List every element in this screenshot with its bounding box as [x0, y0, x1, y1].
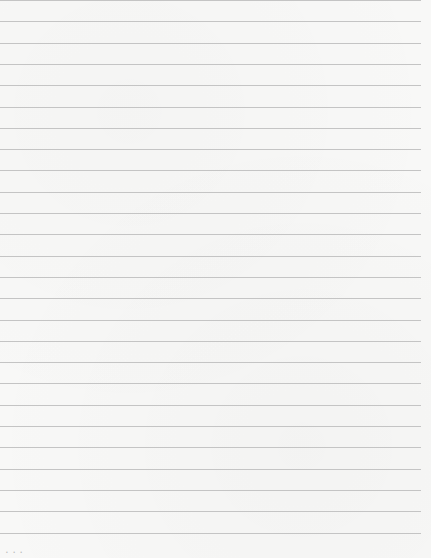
- ruled-line: [0, 341, 421, 342]
- ruled-line: [0, 405, 421, 406]
- ruled-line: [0, 469, 421, 470]
- ruled-line: [0, 533, 421, 534]
- ruled-line: [0, 298, 421, 299]
- ruled-line: [0, 426, 421, 427]
- ruled-line: [0, 64, 421, 65]
- ruled-line: [0, 383, 421, 384]
- page-corner-mark: • • •: [6, 549, 24, 555]
- ruled-line: [0, 362, 421, 363]
- ruled-line: [0, 277, 421, 278]
- ruled-line: [0, 107, 421, 108]
- ruled-line: [0, 43, 421, 44]
- ruled-line: [0, 256, 421, 257]
- ruled-line: [0, 234, 421, 235]
- ruled-line: [0, 490, 421, 491]
- ruled-line: [0, 320, 421, 321]
- ruled-line: [0, 192, 421, 193]
- ruled-paper: [0, 0, 431, 558]
- ruled-line: [0, 21, 421, 22]
- ruled-line: [0, 447, 421, 448]
- ruled-line: [0, 128, 421, 129]
- ruled-line: [0, 149, 421, 150]
- ruled-line: [0, 170, 421, 171]
- ruled-line: [0, 213, 421, 214]
- ruled-line: [0, 85, 421, 86]
- ruled-line: [0, 0, 421, 1]
- ruled-line: [0, 511, 421, 512]
